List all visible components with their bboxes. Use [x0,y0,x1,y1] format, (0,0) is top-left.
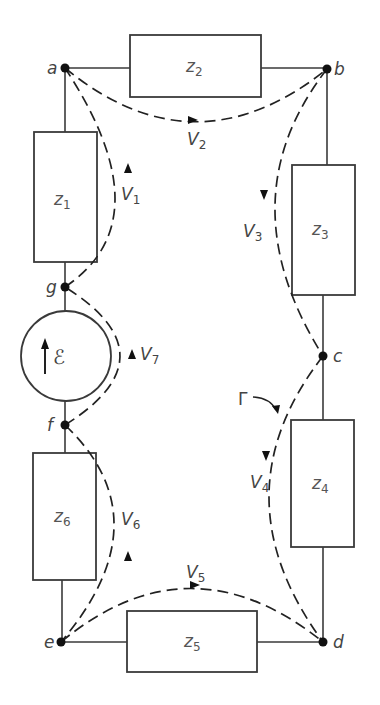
node-g-label: g [46,277,57,297]
loop-label-gamma: Γ [238,389,280,414]
v6-arrow-icon [124,551,132,561]
node-f [61,421,70,430]
v3-arrow-icon [260,190,268,200]
v5-label: V5 [186,562,205,585]
v2-label: V2 [187,129,206,152]
node-c-label: c [333,346,343,366]
node-d [319,638,328,647]
emf-source: ℰ [21,311,111,401]
v3-label: V3 [243,221,262,244]
v1-arrow-icon [124,163,132,173]
node-a [61,64,70,73]
gamma-pointer-arrow-icon [272,405,280,414]
node-a-label: a [47,58,57,78]
impedance-z1: z1 [34,132,97,262]
v2-arrow-icon [188,116,198,124]
node-e [57,638,66,647]
impedance-z2: z2 [130,35,261,97]
v7-label: V7 [140,344,159,367]
v4-label: V4 [250,472,269,495]
node-e-label: e [44,632,54,652]
impedance-z5: z5 [127,611,257,672]
impedance-z6: z6 [33,453,96,580]
v1-label: V1 [121,184,140,207]
voltage-labels: V1 V2 V3 V4 V5 V6 V7 [121,129,269,585]
circuit-diagram: z1 z2 z3 z4 z5 z6 ℰ [0,0,380,705]
node-b [323,65,332,74]
node-g [61,283,70,292]
node-b-label: b [334,59,345,79]
impedance-z4: z4 [291,420,354,547]
v6-label: V6 [121,509,140,532]
impedance-z3: z3 [292,165,355,295]
gamma-label: Γ [238,389,248,409]
node-d-label: d [333,632,344,652]
v4-arrow-icon [262,451,270,461]
gamma-pointer [253,397,276,410]
node-f-label: f [47,415,56,435]
emf-symbol: ℰ [53,345,65,369]
v7-arrow-icon [128,349,136,359]
node-c [319,352,328,361]
